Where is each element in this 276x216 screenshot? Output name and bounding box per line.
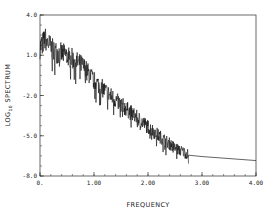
noisy-spectrum-line [40,29,189,164]
y-tick-label: 1.0 [26,51,37,58]
x-tick-label: 1.00 [87,179,102,186]
data-series [40,29,256,164]
y-axis: 4.01.0-2.0-5.0-8.0 [23,11,44,179]
x-axis-title: FREQUENCY [126,201,169,209]
y-tick-label: -5.0 [23,132,38,139]
y-tick-label: -2.0 [23,92,38,99]
smooth-tail-line [189,155,257,160]
y-tick-label: -8.0 [23,172,38,179]
plot-frame [40,15,256,176]
x-axis: 0.1.002.003.004.00 [36,172,263,186]
spectrum-chart: 4.01.0-2.0-5.0-8.0 0.1.002.003.004.00 FR… [0,0,276,216]
y-axis-title: LOG10 SPECTRUM [4,64,13,127]
y-tick-label: 4.0 [26,11,37,18]
x-tick-label: 3.00 [195,179,210,186]
x-tick-label: 0. [36,179,43,186]
x-tick-label: 4.00 [249,179,264,186]
x-tick-label: 2.00 [141,179,156,186]
